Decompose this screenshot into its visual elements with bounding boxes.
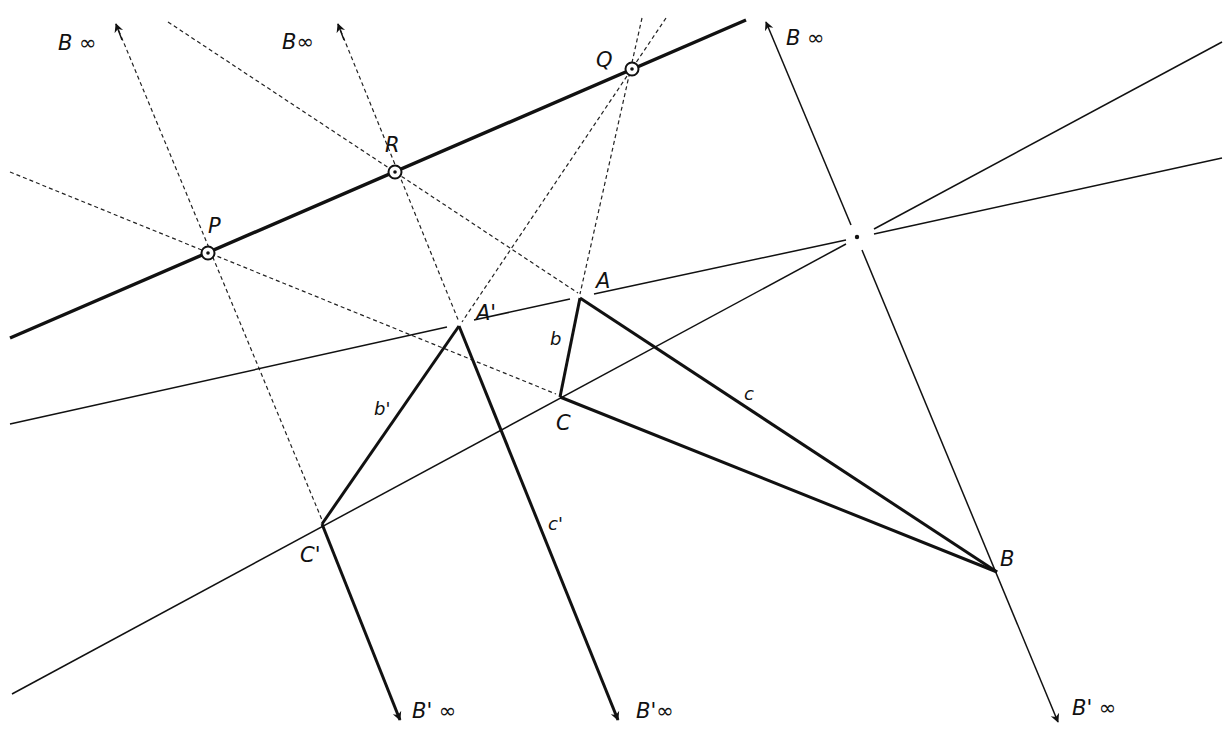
- label-side-b: b: [550, 328, 561, 349]
- point-O-marker: [855, 235, 859, 239]
- triangle-a-prime-b-prime-c-prime: [322, 326, 618, 720]
- label-b-inf-2: B∞: [282, 30, 314, 54]
- label-b-prime-inf-1: B' ∞: [412, 699, 456, 723]
- label-b-inf-3: B ∞: [786, 26, 825, 50]
- label-C: C: [556, 411, 571, 435]
- line-o-to-b-prime-inf: [862, 250, 1058, 722]
- dashed-construction-lines: [10, 18, 666, 520]
- side-a-cb: [560, 397, 997, 572]
- label-side-c-prime: c': [548, 513, 563, 534]
- side-b-ac: [560, 298, 580, 397]
- geometry-diagram: P R Q A A' C C' B b c b' c' B ∞ B∞ B ∞ B…: [0, 0, 1228, 739]
- label-B: B: [1000, 547, 1014, 571]
- thin-lines: [10, 22, 1222, 722]
- line-through-a-prime-a-right: [594, 240, 846, 294]
- line-b-inf-to-o: [766, 22, 851, 225]
- side-c-prime: [459, 326, 618, 720]
- label-P: P: [208, 214, 221, 238]
- dashed-line-p-to-c-prime: [116, 24, 322, 520]
- point-P-marker: [202, 247, 215, 260]
- triangle-abc: [560, 298, 997, 572]
- side-b-prime: [322, 326, 459, 524]
- line-o-right-lower: [874, 158, 1222, 234]
- label-b-prime-inf-3: B' ∞: [1072, 696, 1116, 720]
- arrowhead-b-inf-1: [116, 24, 122, 40]
- line-o-right-upper: [874, 42, 1222, 229]
- arrowhead-b-inf-2: [338, 24, 344, 40]
- label-A: A: [594, 269, 610, 293]
- label-R: R: [385, 133, 400, 157]
- label-side-b-prime: b': [374, 398, 390, 419]
- dashed-line-top-r-a: [168, 22, 578, 293]
- label-side-c: c: [744, 383, 754, 404]
- label-A-prime: A': [474, 301, 496, 325]
- point-R-marker: [389, 166, 402, 179]
- label-C-prime: C': [300, 543, 320, 567]
- ray-c-prime-to-b-prime-inf: [322, 524, 400, 720]
- label-b-prime-inf-2: B'∞: [636, 699, 674, 723]
- label-Q: Q: [596, 48, 613, 72]
- point-Q-marker: [626, 63, 639, 76]
- line-through-c-prime-c: [12, 244, 846, 694]
- side-c-ab: [580, 298, 997, 572]
- label-b-inf-1: B ∞: [58, 31, 97, 55]
